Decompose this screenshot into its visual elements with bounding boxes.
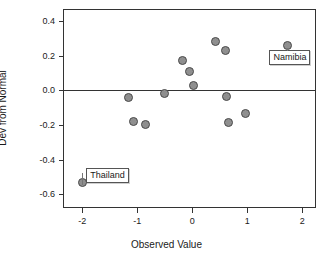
data-point [241, 109, 250, 118]
scatter-plot: Dev from Normal Observed Value 0.40.20.0… [0, 0, 333, 267]
y-tick-label: 0.4 [0, 17, 55, 26]
data-point [178, 56, 187, 65]
y-tick-label: 0.0 [0, 86, 55, 95]
data-point [124, 93, 133, 102]
point-label-thailand: Thailand [86, 168, 129, 183]
x-tick-label: 1 [245, 217, 250, 226]
data-point [222, 92, 231, 101]
data-point [189, 81, 198, 90]
y-tick-label: -0.6 [0, 190, 55, 199]
data-point [141, 120, 150, 129]
data-point [160, 89, 169, 98]
y-tick-label: 0.2 [0, 52, 55, 61]
data-point [185, 67, 194, 76]
y-tick-label: -0.2 [0, 121, 55, 130]
x-axis-title: Observed Value [0, 240, 333, 250]
x-tick-mark [137, 208, 138, 213]
data-point [129, 117, 138, 126]
y-axis-title: Dev from Normal [0, 70, 8, 146]
x-tick-label: 0 [190, 217, 195, 226]
x-tick-mark [82, 208, 83, 213]
x-tick-mark [302, 208, 303, 213]
data-point [221, 46, 230, 55]
plot-area: ThailandNamibia [63, 9, 316, 208]
label-leader-line [287, 48, 288, 51]
data-point [224, 118, 233, 127]
x-tick-mark [192, 208, 193, 213]
x-tick-label: -1 [133, 217, 141, 226]
y-tick-label: -0.4 [0, 156, 55, 165]
x-tick-mark [247, 208, 248, 213]
label-leader-line [82, 173, 83, 185]
point-label-namibia: Namibia [269, 50, 310, 65]
x-tick-label: -2 [78, 217, 86, 226]
data-point [211, 37, 220, 46]
x-tick-label: 2 [300, 217, 305, 226]
zero-reference-line [63, 90, 316, 91]
